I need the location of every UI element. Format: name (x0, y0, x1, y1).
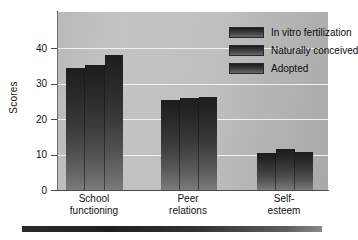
x-axis-line (57, 190, 329, 191)
category-label-self-esteem-line-1: Self- (244, 193, 324, 205)
legend-label-adopted: Adopted (271, 63, 308, 74)
y-tick-label-20: 20 (7, 115, 47, 125)
y-tick-label-40: 40 (7, 44, 47, 54)
category-label-school-functioning: School functioning (54, 193, 134, 217)
category-label-school-functioning-line-1: School (54, 193, 134, 205)
category-label-school-functioning-line-2: functioning (54, 205, 134, 217)
y-tick-label-30: 30 (7, 79, 47, 89)
legend-label-naturally-conceived: Naturally conceived (271, 45, 358, 56)
category-label-peer-relations-line-2: relations (148, 205, 228, 217)
category-label-self-esteem-line-2: esteem (244, 205, 324, 217)
bar-group-peer-relations (161, 12, 217, 190)
bar-self-esteem-adopted (295, 152, 313, 190)
bar-school-functioning-adopted (105, 55, 123, 190)
legend-item-naturally-conceived: Naturally conceived (229, 45, 358, 56)
legend-swatch-naturally-conceived (229, 45, 264, 56)
legend-swatch-in-vitro-fertilization (229, 27, 264, 38)
category-label-self-esteem: Self- esteem (244, 193, 324, 217)
legend-item-in-vitro-fertilization: In vitro fertilization (229, 27, 358, 38)
bar-group-school-functioning (66, 12, 123, 190)
category-label-peer-relations: Peer relations (148, 193, 228, 217)
bar-self-esteem-in-vitro-fertilization (257, 153, 276, 190)
bar-peer-relations-adopted (199, 97, 217, 190)
bar-peer-relations-in-vitro-fertilization (161, 100, 180, 190)
legend-item-adopted: Adopted (229, 63, 358, 74)
y-tick-label-0: 0 (7, 186, 47, 196)
bottom-rule (22, 226, 322, 232)
bar-self-esteem-naturally-conceived (276, 149, 294, 190)
chart-legend: In vitro fertilization Naturally conceiv… (229, 27, 358, 74)
bar-peer-relations-naturally-conceived (180, 98, 198, 190)
bar-school-functioning-in-vitro-fertilization (66, 68, 85, 190)
legend-swatch-adopted (229, 63, 264, 74)
legend-label-in-vitro-fertilization: In vitro fertilization (271, 27, 352, 38)
bar-school-functioning-naturally-conceived (85, 65, 104, 190)
category-label-peer-relations-line-1: Peer (148, 193, 228, 205)
y-tick-label-10: 10 (7, 150, 47, 160)
plot-area: In vitro fertilization Naturally conceiv… (57, 12, 328, 190)
